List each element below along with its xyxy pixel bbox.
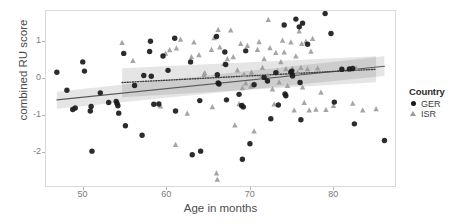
- data-point-isr: [266, 17, 271, 22]
- data-point-isr: [210, 104, 215, 109]
- data-point-ger: [54, 70, 59, 75]
- data-point-isr: [232, 122, 237, 127]
- x-tick-mark: [83, 187, 84, 190]
- data-point-ger: [251, 82, 256, 87]
- data-point-isr: [256, 39, 261, 44]
- data-point-ger: [215, 72, 220, 77]
- data-point-isr: [209, 47, 214, 52]
- data-point-ger: [352, 121, 357, 126]
- data-point-isr: [302, 100, 307, 105]
- data-points-isr: [119, 17, 378, 182]
- data-point-ger: [305, 41, 310, 46]
- data-point-ger: [64, 88, 69, 93]
- data-point-ger: [224, 97, 229, 102]
- data-point-ger: [121, 51, 126, 56]
- data-point-isr: [130, 58, 135, 63]
- scatter-plot-figure: combined RU score Age in months 50607080…: [0, 0, 462, 224]
- data-point-ger: [283, 93, 288, 98]
- data-point-isr: [217, 44, 222, 49]
- data-point-ger: [82, 68, 87, 73]
- data-point-isr: [214, 170, 219, 175]
- data-point-isr: [255, 47, 260, 52]
- data-point-ger: [243, 48, 248, 53]
- data-point-ger: [328, 31, 333, 36]
- data-point-isr: [281, 49, 286, 54]
- data-point-ger: [298, 117, 303, 122]
- legend-label-isr: ISR: [421, 109, 436, 119]
- data-point-isr: [189, 54, 194, 59]
- data-point-ger: [240, 157, 245, 162]
- data-point-ger: [190, 152, 195, 157]
- data-point-ger: [149, 74, 154, 79]
- data-point-ger: [132, 83, 137, 88]
- data-point-ger: [289, 68, 294, 73]
- data-point-ger: [188, 59, 193, 64]
- data-point-isr: [267, 45, 272, 50]
- data-point-isr: [174, 45, 179, 50]
- data-point-isr: [185, 111, 190, 116]
- legend-title: Country: [409, 86, 461, 97]
- data-point-ger: [268, 116, 273, 121]
- confidence-ribbon: [122, 56, 376, 97]
- circle-marker-icon: [409, 99, 420, 108]
- data-point-ger: [165, 68, 170, 73]
- data-point-ger: [98, 90, 103, 95]
- data-point-isr: [313, 106, 318, 111]
- data-point-ger: [241, 104, 246, 109]
- data-point-ger: [80, 59, 85, 64]
- data-point-ger: [141, 73, 146, 78]
- data-point-ger: [273, 70, 278, 75]
- data-point-isr: [228, 27, 233, 32]
- data-point-ger: [293, 16, 298, 21]
- x-tick-label: 50: [70, 189, 96, 199]
- data-point-ger: [214, 34, 219, 39]
- data-point-ger: [89, 148, 94, 153]
- data-point-isr: [273, 50, 278, 55]
- data-point-ger: [160, 53, 165, 58]
- x-tick-label: 70: [237, 189, 263, 199]
- data-point-ger: [115, 103, 120, 108]
- data-point-isr: [173, 142, 178, 147]
- data-point-ger: [281, 22, 286, 27]
- plot-canvas: [46, 11, 396, 187]
- data-point-ger: [382, 138, 387, 143]
- plot-panel: [45, 10, 396, 187]
- data-point-isr: [307, 107, 312, 112]
- legend-label-ger: GER: [421, 99, 441, 109]
- data-point-isr: [231, 54, 236, 59]
- data-point-ger: [139, 133, 144, 138]
- data-point-isr: [191, 39, 196, 44]
- legend: Country GER ISR: [409, 86, 461, 119]
- data-point-ger: [247, 141, 252, 146]
- data-point-ger: [173, 108, 178, 113]
- data-point-isr: [215, 27, 220, 32]
- data-point-ger: [350, 66, 355, 71]
- data-point-isr: [293, 53, 298, 58]
- x-tick-label: 60: [153, 189, 179, 199]
- legend-item-ger[interactable]: GER: [409, 99, 461, 108]
- data-point-isr: [350, 101, 355, 106]
- data-point-ger: [322, 11, 327, 16]
- data-point-ger: [123, 123, 128, 128]
- y-tick-label: 1: [19, 35, 41, 45]
- data-point-ger: [197, 98, 202, 103]
- data-point-isr: [196, 52, 201, 57]
- data-point-ger: [339, 67, 344, 72]
- data-point-isr: [178, 36, 183, 41]
- data-point-ger: [216, 81, 221, 86]
- data-point-ger: [223, 62, 228, 67]
- data-point-ger: [265, 78, 270, 83]
- data-point-ger: [236, 92, 241, 97]
- data-point-isr: [288, 39, 293, 44]
- data-point-ger: [148, 39, 153, 44]
- data-point-isr: [251, 128, 256, 133]
- x-tick-label: 80: [320, 189, 346, 199]
- data-point-ger: [106, 100, 111, 105]
- data-point-isr: [119, 40, 124, 45]
- legend-item-isr[interactable]: ISR: [409, 109, 461, 118]
- data-point-isr: [238, 41, 243, 46]
- x-tick-mark: [333, 187, 334, 190]
- data-point-isr: [318, 89, 323, 94]
- data-point-isr: [323, 107, 328, 112]
- triangle-marker-icon: [409, 109, 420, 118]
